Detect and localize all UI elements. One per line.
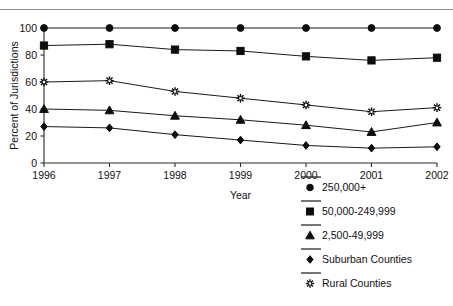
series-triangle [40, 105, 442, 136]
chart-legend: 250,000+50,000-249,9992,500-49,999Suburb… [301, 177, 412, 289]
x-tick-label: 1999 [229, 169, 253, 181]
y-tick-label: 100 [19, 22, 37, 34]
marker-diamond [41, 123, 47, 131]
marker-circle [172, 25, 179, 32]
line-chart: 0204060801001996199719981999200020012002… [0, 0, 453, 306]
marker-square [433, 54, 440, 61]
legend-label: 50,000-249,999 [322, 205, 396, 217]
y-tick-label: 80 [25, 49, 37, 61]
x-tick-label: 2001 [360, 169, 384, 181]
marker-diamond [303, 142, 309, 150]
marker-circle [106, 25, 113, 32]
legend-item[interactable]: 2,500-49,999 [301, 225, 384, 241]
marker-asterisk [302, 101, 311, 110]
y-tick-label: 20 [25, 130, 37, 142]
marker-circle [237, 25, 244, 32]
legend-item[interactable]: Suburban Counties [301, 249, 412, 265]
x-tick-label: 2000 [294, 169, 318, 181]
legend-label: Rural Counties [322, 277, 391, 289]
marker-circle [41, 25, 48, 32]
marker-asterisk [367, 107, 376, 116]
legend-label: Suburban Counties [322, 253, 412, 265]
marker-diamond [368, 144, 374, 152]
x-axis-title: Year [230, 189, 252, 201]
marker-circle [303, 25, 310, 32]
y-tick-label: 60 [25, 76, 37, 88]
marker-square [237, 47, 244, 54]
marker-diamond [237, 136, 243, 144]
y-axis-title: Percent of Jurisdictions [8, 41, 20, 150]
legend-item[interactable]: 50,000-249,999 [301, 201, 396, 217]
marker-triangle [433, 118, 442, 126]
marker-asterisk [236, 94, 245, 103]
series-circle [41, 25, 441, 32]
marker-asterisk [306, 279, 314, 287]
series-diamond [41, 123, 440, 152]
marker-diamond [172, 131, 178, 139]
marker-asterisk [433, 103, 442, 112]
marker-square [171, 46, 178, 53]
y-tick-label: 0 [31, 157, 37, 169]
x-tick-label: 1997 [98, 169, 122, 181]
x-tick-label: 2002 [425, 169, 449, 181]
figure-container: 0204060801001996199719981999200020012002… [0, 0, 453, 306]
marker-circle [434, 25, 441, 32]
marker-square [302, 53, 309, 60]
marker-square [307, 208, 314, 215]
marker-diamond [307, 256, 313, 264]
marker-circle [368, 25, 375, 32]
x-tick-label: 1996 [32, 169, 56, 181]
legend-item[interactable]: Rural Counties [301, 273, 391, 289]
marker-square [368, 57, 375, 64]
marker-square [40, 42, 47, 49]
marker-square [106, 41, 113, 48]
legend-label: 250,000+ [322, 181, 366, 193]
marker-triangle [306, 231, 315, 239]
legend-label: 2,500-49,999 [322, 229, 384, 241]
marker-asterisk [105, 76, 114, 85]
x-tick-label: 1998 [163, 169, 187, 181]
series-square [40, 41, 440, 64]
marker-diamond [106, 124, 112, 132]
marker-asterisk [40, 78, 49, 87]
marker-diamond [434, 143, 440, 151]
marker-asterisk [171, 87, 180, 96]
marker-circle [307, 184, 314, 191]
y-tick-label: 40 [25, 103, 37, 115]
